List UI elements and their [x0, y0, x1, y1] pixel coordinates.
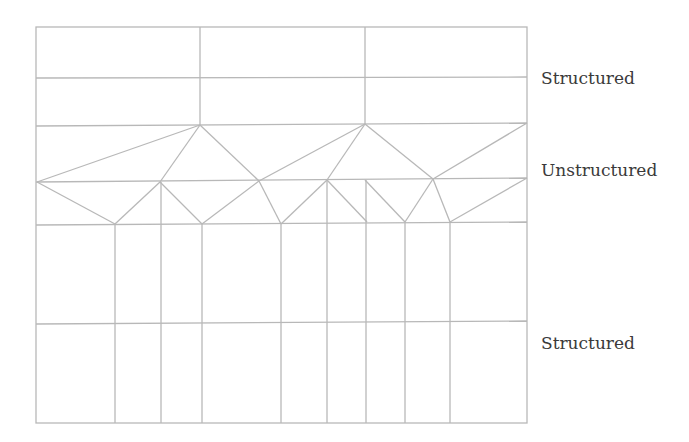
triangle-edge: [160, 182, 202, 224]
triangle-edge: [327, 180, 367, 222]
triangle-edge: [259, 124, 365, 181]
horizontal-line: [36, 178, 527, 182]
label-structured-bottom: Structured: [541, 333, 635, 353]
triangle-edge: [405, 179, 433, 222]
triangle-edge: [450, 178, 527, 222]
horizontal-line: [36, 123, 527, 126]
unstructured-triangle-edges: [37, 123, 527, 224]
triangle-edge: [365, 124, 433, 179]
label-unstructured: Unstructured: [541, 160, 657, 180]
horizontal-line: [36, 77, 527, 78]
triangle-edge: [160, 125, 200, 182]
triangle-edge: [37, 182, 115, 224]
triangle-edge: [433, 179, 450, 222]
triangle-edge: [327, 124, 365, 180]
triangle-edge: [365, 180, 405, 222]
triangle-edge: [202, 181, 259, 224]
triangle-edge: [281, 180, 327, 224]
mesh-diagram: [0, 0, 689, 442]
top-structured-verticals: [200, 27, 365, 125]
triangle-edge: [37, 125, 200, 182]
triangle-edge: [433, 123, 527, 179]
label-structured-top: Structured: [541, 68, 635, 88]
triangle-edge: [200, 125, 259, 181]
triangle-edge: [259, 181, 281, 224]
triangle-edge: [115, 182, 160, 224]
